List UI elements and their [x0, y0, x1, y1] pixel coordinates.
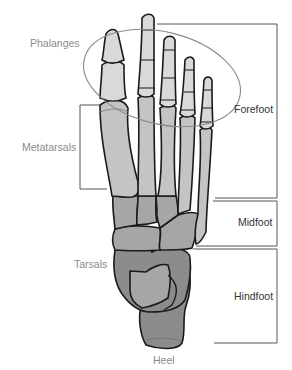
midfoot-label: Midfoot [238, 216, 272, 228]
phalanx-4 [180, 57, 195, 117]
phalanges-label: Phalanges [30, 37, 80, 49]
medial-cuneiform [113, 195, 138, 230]
heel-label: Heel [153, 354, 175, 366]
metatarsal-3 [158, 105, 176, 196]
phalanx-5 [200, 77, 213, 129]
foot-bone-diagram [0, 0, 292, 370]
metatarsals-label: Metatarsals [22, 141, 76, 153]
metatarsal-4 [178, 115, 195, 214]
phalanx-2 [138, 14, 154, 97]
metatarsal-5 [195, 127, 212, 244]
phalanx-1-proximal [100, 61, 126, 101]
phalanx-3 [160, 36, 176, 107]
intermediate-cuneiform [137, 196, 157, 225]
navicular-bone [113, 226, 161, 251]
phalanx-1-distal [102, 30, 124, 64]
tarsals-label: Tarsals [74, 258, 107, 270]
metatarsal-1 [100, 100, 139, 197]
metatarsal-2 [138, 95, 156, 196]
forefoot-label: Forefoot [234, 103, 273, 115]
hindfoot-label: Hindfoot [234, 290, 273, 302]
